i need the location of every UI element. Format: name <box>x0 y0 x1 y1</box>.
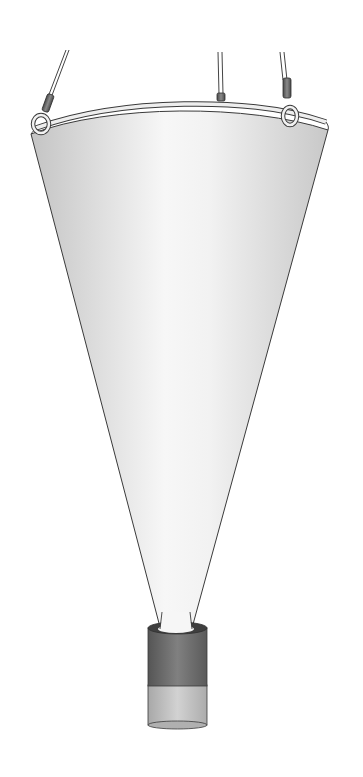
net-cone <box>31 111 328 650</box>
suspension-cords <box>48 50 287 98</box>
cod-end-collector <box>148 612 207 729</box>
plankton-net-illustration <box>0 0 363 777</box>
